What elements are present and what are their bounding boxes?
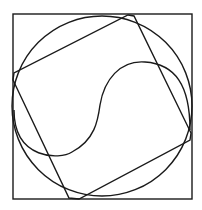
geometry-diagram (0, 0, 202, 210)
inscribed-circle (12, 16, 192, 196)
